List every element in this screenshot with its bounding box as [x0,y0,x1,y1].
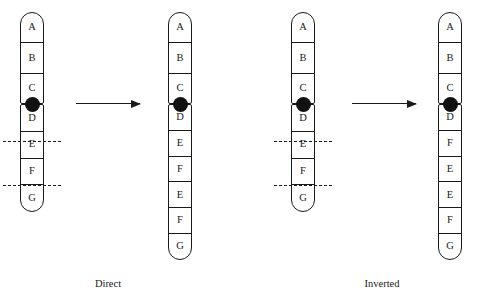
band-A: A [292,13,314,43]
chromosome-2-q-arm: D E F E F G [168,104,192,260]
band-F-1: F [439,131,461,157]
breakpoint-dashed-line-lower [274,185,332,186]
band-B: B [21,43,43,73]
band-E: E [292,132,314,159]
caption-direct: Direct [58,278,158,289]
band-E: E [21,132,43,159]
chromosome-3-p-arm: A B C [291,12,315,104]
band-A: A [169,13,191,43]
band-G: G [21,185,43,211]
band-G: G [169,234,191,259]
chromosome-3-q-arm: D E F G [291,104,315,212]
band-B: B [439,43,461,73]
band-F-1: F [169,157,191,183]
chromosome-1-q-arm: D E F G [20,104,44,212]
band-A: A [21,13,43,43]
chromosome-4-p-arm: A B C [438,12,462,104]
chromosome-2-p-arm: A B C [168,12,192,104]
band-E-1: E [169,131,191,157]
centromere-icon [296,97,311,112]
chromosome-1-p-arm: A B C [20,12,44,104]
centromere-icon [173,97,188,112]
band-F-2: F [439,208,461,234]
band-E-1: E [439,157,461,183]
breakpoint-dashed-line-upper [274,141,332,142]
chromosome-4-q-arm: D F E E F G [438,104,462,260]
caption-inverted: Inverted [332,278,432,289]
transformation-arrow-direct [76,103,140,104]
band-F: F [292,159,314,186]
band-F: F [21,159,43,186]
chromosome-duplication-figure: A B C D E F G A B C D E F E F G [0,0,477,300]
band-E-2: E [439,182,461,208]
breakpoint-dashed-line-upper [3,141,61,142]
band-E-2: E [169,182,191,208]
breakpoint-dashed-line-lower [3,185,61,186]
transformation-arrow-inverted [352,103,416,104]
band-G: G [292,185,314,211]
band-A: A [439,13,461,43]
centromere-icon [443,97,458,112]
band-B: B [292,43,314,73]
band-F-2: F [169,208,191,234]
band-B: B [169,43,191,73]
band-G: G [439,234,461,259]
centromere-icon [25,97,40,112]
